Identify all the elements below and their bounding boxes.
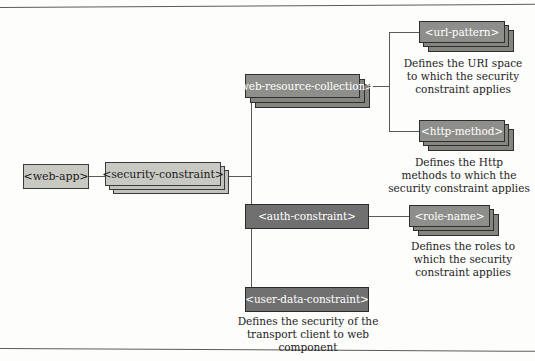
caption-line: methods to which the — [384, 169, 534, 182]
top-rule — [0, 4, 535, 8]
caption-line: component — [235, 341, 381, 354]
caption-line: Defines the roles to — [400, 240, 526, 253]
spine-web-resource — [389, 32, 390, 131]
connector-subspine-to-httpmethod — [389, 131, 419, 132]
caption-line: Defines the security of the — [235, 315, 381, 328]
caption-line: which the security — [400, 253, 526, 266]
caption-role-name: Defines the roles to which the security … — [400, 240, 526, 279]
caption-user-data-constraint: Defines the security of the transport cl… — [235, 315, 381, 354]
connector-subspine-to-urlpattern — [389, 32, 419, 33]
caption-line: Defines the URI space — [396, 57, 530, 70]
caption-url-pattern: Defines the URI space to which the secur… — [396, 57, 530, 96]
caption-line: transport client to web — [235, 328, 381, 341]
node-user-data-constraint-label: <user-data-constraint> — [245, 294, 369, 305]
node-auth-constraint[interactable]: <auth-constraint> — [245, 204, 369, 229]
node-web-resource-collection[interactable]: <web-resource-collection> — [245, 74, 360, 98]
node-url-pattern[interactable]: <url-pattern> — [419, 21, 505, 43]
node-auth-constraint-label: <auth-constraint> — [258, 211, 356, 222]
connector-authconstraint-to-rolename — [369, 216, 409, 217]
node-http-method-label: <http-method> — [421, 126, 503, 137]
node-web-app[interactable]: <web-app> — [23, 164, 89, 189]
caption-line: Defines the Http — [384, 156, 534, 169]
node-user-data-constraint[interactable]: <user-data-constraint> — [245, 287, 369, 312]
node-http-method[interactable]: <http-method> — [419, 120, 505, 142]
diagram-canvas: <web-app> <security-constraint> <web-res… — [0, 0, 535, 361]
caption-http-method: Defines the Http methods to which the se… — [384, 156, 534, 195]
node-web-resource-collection-label: <web-resource-collection> — [231, 81, 374, 92]
node-role-name-label: <role-name> — [414, 211, 484, 222]
caption-line: constraint applies — [400, 266, 526, 279]
node-security-constraint-label: <security-constraint> — [102, 169, 224, 180]
node-role-name[interactable]: <role-name> — [409, 205, 490, 227]
node-security-constraint[interactable]: <security-constraint> — [105, 162, 221, 186]
caption-line: to which the security — [396, 70, 530, 83]
spine-main — [251, 86, 252, 304]
caption-line: constraint applies — [396, 83, 530, 96]
node-web-app-label: <web-app> — [24, 171, 89, 182]
caption-line: security constraint applies — [384, 182, 534, 195]
node-url-pattern-label: <url-pattern> — [425, 27, 499, 38]
